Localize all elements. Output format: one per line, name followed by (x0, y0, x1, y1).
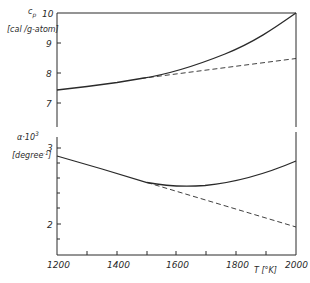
bottom-tick-3: 3 (47, 143, 53, 153)
x-tick-1800: 1800 (226, 260, 249, 270)
top-ylabel-unit: [cal /g-atom] (7, 25, 59, 34)
x-tick-2000: 2000 (285, 260, 308, 270)
bottom-ylabel: α·103 (17, 130, 39, 142)
x-tick-1600: 1600 (166, 260, 189, 270)
bottom-panel (57, 132, 296, 255)
x-axis-label: T [°K] (254, 266, 277, 275)
top-tick-7: 7 (46, 99, 52, 109)
bottom-tick-2: 2 (47, 220, 53, 230)
cp-measured-curve (57, 13, 296, 90)
alpha-measured-curve (57, 156, 296, 186)
chart-canvas: cp [cal /g-atom] 10 9 8 7 α·103 [degree-… (0, 0, 310, 283)
bottom-ylabel-unit: [degree-1] (12, 150, 51, 160)
x-tick-1400: 1400 (107, 260, 130, 270)
top-panel (57, 13, 296, 127)
top-ylabel: cp (28, 7, 36, 19)
top-tick-10: 10 (42, 9, 54, 19)
alpha-extrapolated-curve (147, 183, 296, 228)
top-tick-9: 9 (46, 39, 52, 49)
x-tick-1200: 1200 (47, 260, 70, 270)
cp-extrapolated-curve (141, 59, 296, 79)
top-tick-8: 8 (46, 69, 52, 79)
